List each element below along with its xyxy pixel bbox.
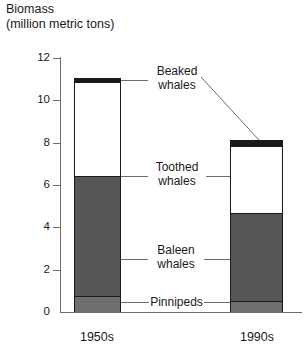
annotation-toothed-whales-line-2: whales bbox=[148, 174, 206, 188]
annotation-toothed-whales: Toothed whales bbox=[148, 160, 206, 188]
annotation-beaked-whales: Beaked whales bbox=[149, 64, 205, 92]
annotation-pinnipeds: Pinnipeds bbox=[149, 295, 204, 309]
biomass-stacked-bar-chart: Biomass (million metric tons) 12 10 8 6 … bbox=[0, 0, 307, 354]
annotation-beaked-whales-line-2: whales bbox=[149, 78, 205, 92]
annotation-baleen-whales: Baleen whales bbox=[148, 243, 204, 271]
annotation-baleen-whales-line-1: Baleen bbox=[148, 243, 204, 257]
x-axis-label-1950s: 1950s bbox=[57, 330, 137, 344]
x-axis-label-1990s: 1990s bbox=[217, 330, 297, 344]
annotation-beaked-whales-line-1: Beaked bbox=[149, 64, 205, 78]
annotation-toothed-whales-line-1: Toothed bbox=[148, 160, 206, 174]
annotation-baleen-whales-line-2: whales bbox=[148, 257, 204, 271]
